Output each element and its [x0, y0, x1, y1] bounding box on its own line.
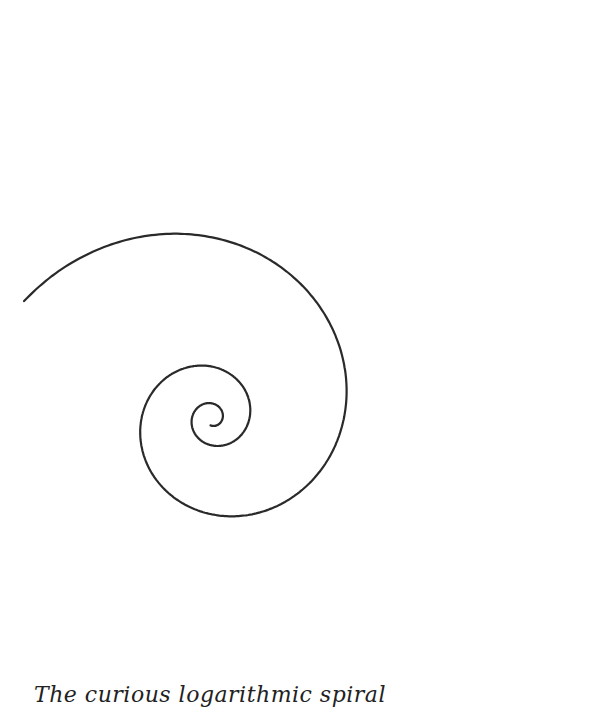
figure-caption: The curious logarithmic spiral [34, 682, 386, 707]
spiral-curve [24, 234, 347, 517]
